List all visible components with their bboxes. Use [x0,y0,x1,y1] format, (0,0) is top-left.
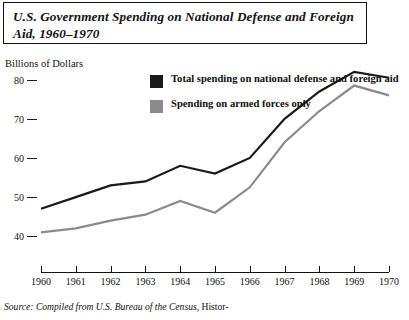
y-axis-tick-mark [27,197,37,198]
x-axis-tick-mark-1963 [145,266,146,272]
x-axis-tick-mark-1970 [389,266,390,272]
x-axis-tick-label-1970: 1970 [379,276,399,287]
y-axis-tick-60: 60 [8,153,37,164]
y-axis-tick-70: 70 [8,114,37,125]
x-axis-tick-label-1969: 1969 [344,276,364,287]
y-axis-tick-mark [27,236,37,237]
y-axis-tick-label: 80 [8,75,24,86]
legend-item-armed: Spending on armed forces only [150,98,399,111]
source-prefix: Source: [4,301,33,312]
y-axis-tick-label: 60 [8,153,24,164]
x-axis-tick-mark-1962 [111,266,112,272]
x-axis-tick-label-1961: 1961 [66,276,86,287]
source-title-fragment: Histor- [199,301,228,312]
figure-container: U.S. Government Spending on National Def… [0,0,409,320]
x-axis-tick-label-1963: 1963 [135,276,155,287]
x-axis-tick-mark-1969 [354,266,355,272]
x-axis-tick-label-1967: 1967 [275,276,295,287]
legend-label-armed: Spending on armed forces only [171,98,399,111]
x-axis-tick-label-1964: 1964 [170,276,190,287]
chart-series-layer [0,0,409,300]
source-note: Source: Compiled from U.S. Bureau of the… [4,301,228,312]
legend-label-total: Total spending on national defense and f… [171,73,399,86]
x-axis-tick-label-1968: 1968 [309,276,329,287]
x-axis-tick-mark-1968 [319,266,320,272]
x-axis-line [41,272,389,273]
x-axis-tick-label-1962: 1962 [101,276,121,287]
chart-legend: Total spending on national defense and f… [150,73,399,117]
x-axis-tick-mark-1967 [285,266,286,272]
y-axis-tick-label: 70 [8,114,24,125]
x-axis-tick-label-1966: 1966 [240,276,260,287]
source-citation: Compiled from U.S. Bureau of the Census, [36,301,199,312]
x-axis-tick-mark-1964 [180,266,181,272]
y-axis-tick-mark [27,158,37,159]
y-axis-tick-mark [27,80,37,81]
y-axis-tick-80: 80 [8,75,37,86]
legend-swatch-total-icon [150,75,163,88]
x-axis-tick-label-1965: 1965 [205,276,225,287]
plot-area: 4050607080 19601961196219631964196519661… [0,0,409,300]
x-axis-tick-mark-1965 [215,266,216,272]
y-axis-tick-mark [27,119,37,120]
x-axis-tick-mark-1960 [41,266,42,272]
x-axis-tick-mark-1961 [76,266,77,272]
y-axis-tick-50: 50 [8,192,37,203]
y-axis-tick-label: 50 [8,192,24,203]
x-axis-tick-mark-1966 [250,266,251,272]
legend-swatch-armed-icon [150,100,163,113]
y-axis-tick-40: 40 [8,231,37,242]
x-axis-tick-label-1960: 1960 [31,276,51,287]
legend-item-total: Total spending on national defense and f… [150,73,399,86]
y-axis-tick-label: 40 [8,231,24,242]
